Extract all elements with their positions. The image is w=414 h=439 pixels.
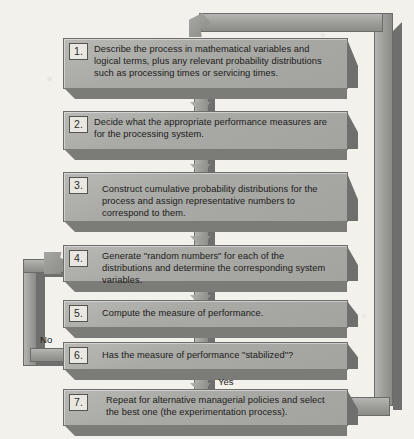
box-side-bottom	[64, 221, 347, 232]
step-text-7: Repeat for alternative managerial polici…	[106, 394, 337, 418]
step-box-5[interactable]: 5. Compute the measure of performance.	[63, 300, 348, 328]
box-side-bottom	[64, 425, 347, 436]
box-side-right	[347, 246, 358, 281]
right-loop-shadow-vertical	[393, 22, 402, 410]
step-number-2: 2.	[69, 116, 88, 133]
step-box-2[interactable]: 2. Decide what the appropriate performan…	[63, 111, 348, 150]
edge-label-no: No	[40, 334, 52, 345]
step-text-3: Construct cumulative probability distrib…	[102, 183, 337, 219]
flowchart-diagram: No Yes 1. Describe the process i	[0, 0, 414, 439]
step-number-1: 1.	[69, 43, 88, 60]
step-text-4: Generate "random numbers" for each of th…	[102, 250, 337, 286]
step-number-7: 7.	[69, 394, 88, 411]
box-side-right	[347, 390, 358, 425]
step-text-6: Has the measure of performance "stabiliz…	[102, 349, 337, 361]
step-box-3[interactable]: 3. Construct cumulative probability dist…	[63, 172, 348, 222]
box-side-right	[347, 301, 358, 327]
step-number-4: 4.	[69, 250, 88, 267]
right-loop-top-band	[199, 13, 383, 32]
step-number-3: 3.	[69, 177, 88, 194]
step-box-4[interactable]: 4. Generate "random numbers" for each of…	[63, 245, 348, 282]
step-number-6: 6.	[69, 347, 88, 364]
box-side-right	[347, 343, 358, 369]
box-side-bottom	[64, 369, 347, 380]
box-side-right	[347, 112, 358, 149]
step-box-7[interactable]: 7. Repeat for alternative managerial pol…	[63, 389, 348, 426]
step-number-5: 5.	[69, 305, 88, 322]
edge-label-yes: Yes	[218, 376, 234, 387]
step-text-1: Describe the process in mathematical var…	[94, 43, 337, 79]
right-loop-vertical-band	[374, 13, 393, 406]
step-text-5: Compute the measure of performance.	[102, 307, 337, 319]
box-side-bottom	[64, 327, 347, 338]
step-box-1[interactable]: 1. Describe the process in mathematical …	[63, 38, 348, 89]
box-side-bottom	[64, 149, 347, 160]
box-side-right	[347, 173, 358, 221]
box-side-right	[347, 39, 358, 88]
step-text-2: Decide what the appropriate performance …	[94, 116, 337, 140]
step-box-6[interactable]: 6. Has the measure of performance "stabi…	[63, 342, 348, 370]
box-side-bottom	[64, 88, 347, 99]
